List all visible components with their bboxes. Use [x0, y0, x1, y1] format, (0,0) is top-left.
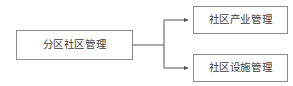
diagram-canvas: 分区社区管理 社区产业管理 社区设施管理	[0, 0, 293, 86]
node-industry-label: 社区产业管理	[209, 15, 273, 26]
node-root-community-management[interactable]: 分区社区管理	[16, 30, 133, 60]
node-community-industry-management[interactable]: 社区产业管理	[193, 6, 288, 34]
node-community-facility-management[interactable]: 社区设施管理	[193, 54, 288, 82]
node-root-label: 分区社区管理	[43, 40, 107, 51]
node-facility-label: 社区设施管理	[209, 63, 273, 74]
